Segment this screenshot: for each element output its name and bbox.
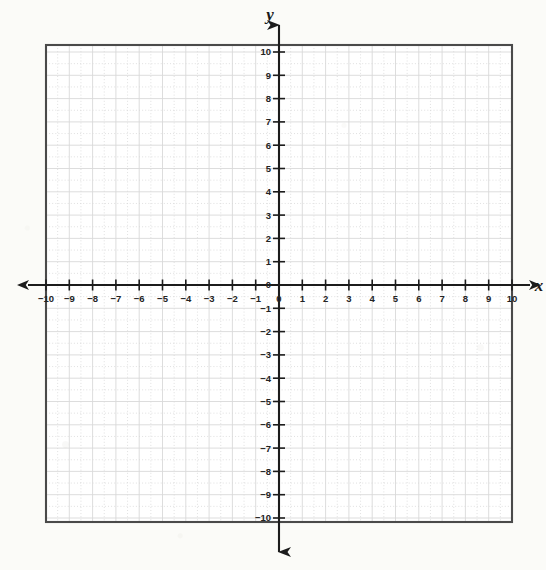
y-tick-label: 6 [266, 140, 271, 151]
x-tick-label: −7 [110, 293, 121, 304]
y-tick-label: −4 [260, 373, 272, 384]
y-tick-label: −6 [260, 419, 271, 430]
y-tick-label: 2 [266, 233, 271, 244]
y-tick-label: −9 [260, 489, 271, 500]
x-tick-label: 1 [300, 293, 306, 304]
y-tick-label: −8 [260, 466, 271, 477]
x-tick-label: 0 [276, 293, 281, 304]
x-axis-label: x [534, 276, 544, 295]
y-tick-label: 5 [266, 163, 272, 174]
coordinate-plane-svg: −10−9−8−7−6−5−4−3−2−1012345678910 109876… [0, 0, 546, 570]
x-tick-label: 5 [393, 293, 399, 304]
x-tick-label: 7 [439, 293, 444, 304]
x-tick-label: −2 [227, 293, 238, 304]
y-tick-label: 9 [266, 70, 271, 81]
y-tick-label: 7 [266, 116, 271, 127]
x-tick-label: 8 [463, 293, 468, 304]
x-tick-label: −8 [87, 293, 98, 304]
y-axis-label: y [264, 5, 274, 24]
x-tick-label: 9 [486, 293, 491, 304]
x-tick-label: −9 [64, 293, 75, 304]
y-tick-label: −5 [260, 396, 272, 407]
x-tick-label: 6 [416, 293, 421, 304]
x-tick-label: 2 [323, 293, 328, 304]
x-tick-label: −10 [38, 293, 54, 304]
x-tick-label: 10 [507, 293, 518, 304]
x-tick-label: 4 [370, 293, 376, 304]
y-tick-label: −1 [260, 303, 272, 314]
x-tick-label: −3 [204, 293, 215, 304]
coordinate-grid-figure: −10−9−8−7−6−5−4−3−2−1012345678910 109876… [0, 0, 546, 570]
x-tick-label: −4 [180, 293, 192, 304]
y-tick-label: 3 [266, 210, 271, 221]
y-tick-label: 4 [266, 186, 272, 197]
x-tick-label: −6 [134, 293, 145, 304]
y-tick-label: −10 [255, 512, 271, 523]
x-tick-label: 3 [346, 293, 351, 304]
y-tick-label: −3 [260, 349, 271, 360]
y-tick-label: 1 [266, 256, 272, 267]
y-tick-label: 8 [266, 93, 271, 104]
x-tick-label: −5 [157, 293, 169, 304]
y-tick-label: −2 [260, 326, 271, 337]
y-tick-label: 10 [260, 46, 271, 57]
y-tick-label: 0 [266, 279, 271, 290]
y-tick-label: −7 [260, 443, 271, 454]
